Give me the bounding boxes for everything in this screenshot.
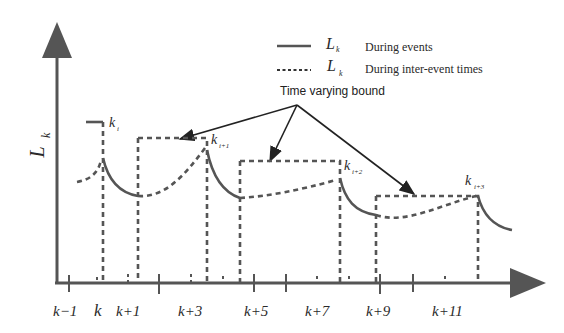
svg-text:k: k (339, 69, 343, 78)
svg-text:During events: During events (365, 40, 433, 54)
event-triggered-diagram: k−1 k k+1 k+3 k+5 k+7 k+9 k+11 L k L k D… (0, 0, 564, 333)
x-tick-labels: k−1 k k+1 k+3 k+5 k+7 k+9 k+11 (53, 301, 463, 320)
tick-label: k+5 (244, 303, 269, 319)
tick-label: k+1 (116, 303, 140, 319)
tick-label: k−1 (53, 303, 77, 319)
svg-text:k: k (211, 132, 218, 147)
svg-text:L: L (325, 35, 335, 52)
svg-text:i+3: i+3 (474, 183, 485, 191)
event-labels: k i k i+1 k i+2 k i+3 (109, 115, 485, 191)
legend-item-dashed: L k During inter-event times (277, 57, 483, 78)
tick-label: k+7 (305, 303, 331, 319)
svg-text:i+1: i+1 (219, 142, 229, 150)
svg-text:L: L (326, 57, 336, 74)
tick-label: k+3 (178, 303, 202, 319)
svg-text:i: i (117, 125, 119, 133)
tick-label: k+9 (366, 303, 391, 319)
svg-text:i+2: i+2 (352, 168, 363, 176)
legend-item-solid: L k During events (277, 35, 433, 54)
svg-text:k: k (336, 45, 340, 54)
legend: L k During events L k During inter-event… (277, 35, 483, 78)
svg-text:L: L (26, 146, 48, 158)
time-varying-bound (86, 122, 478, 283)
tick-label: k+11 (432, 303, 463, 319)
svg-text:k: k (39, 132, 53, 138)
svg-text:k: k (465, 173, 472, 188)
svg-text:k: k (344, 158, 351, 173)
tick-label: k (94, 301, 102, 320)
annotation-time-varying-bound: Time varying bound (280, 84, 385, 98)
svg-text:k: k (109, 115, 116, 130)
annotation-arrows (180, 105, 414, 194)
svg-text:During inter-event times: During inter-event times (365, 62, 483, 76)
y-axis-label: L k (26, 132, 53, 159)
